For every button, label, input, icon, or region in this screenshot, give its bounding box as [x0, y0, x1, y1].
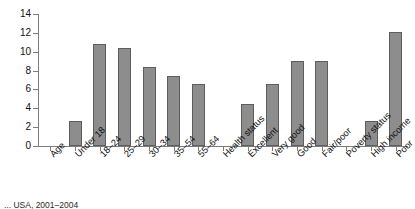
x-axis-category-label: Age: [48, 140, 67, 159]
bar: [118, 48, 131, 146]
bar: [315, 61, 328, 146]
y-axis-tick-label: 12: [0, 28, 31, 38]
y-axis-tick-label-text: 4: [1, 103, 31, 113]
y-axis-tick-label-text: 0: [1, 141, 31, 151]
bar-chart-figure: 02468101214 AgeUnder 1818–2425–2930–3435…: [0, 0, 415, 209]
bar: [69, 121, 82, 146]
y-axis-tick: [33, 71, 38, 72]
y-axis-tick: [33, 52, 38, 53]
y-axis-tick-label-text: 10: [1, 47, 31, 57]
y-axis-tick: [33, 127, 38, 128]
y-axis-tick-label: 4: [0, 103, 31, 113]
y-axis-tick: [33, 89, 38, 90]
y-axis-tick: [33, 146, 38, 147]
y-axis-tick-label: 6: [0, 84, 31, 94]
figure-caption: ... USA, 2001–2004: [4, 201, 78, 209]
y-axis-tick-label: 14: [0, 9, 31, 19]
bar: [167, 76, 180, 146]
y-axis-tick-label-text: 6: [1, 84, 31, 94]
bar: [143, 67, 156, 146]
y-axis-tick: [33, 108, 38, 109]
y-axis-tick-label-text: 12: [1, 28, 31, 38]
y-axis-line: [38, 14, 39, 147]
y-axis-tick-label-text: 2: [1, 122, 31, 132]
y-axis-tick-label: 2: [0, 122, 31, 132]
y-axis-tick: [33, 33, 38, 34]
y-axis-tick: [33, 14, 38, 15]
y-axis-tick-label-text: 8: [1, 66, 31, 76]
y-axis-tick-label: 8: [0, 66, 31, 76]
y-axis-tick-label-text: 14: [1, 9, 31, 19]
y-axis-tick-label: 0: [0, 141, 31, 151]
y-axis-tick-label: 10: [0, 47, 31, 57]
